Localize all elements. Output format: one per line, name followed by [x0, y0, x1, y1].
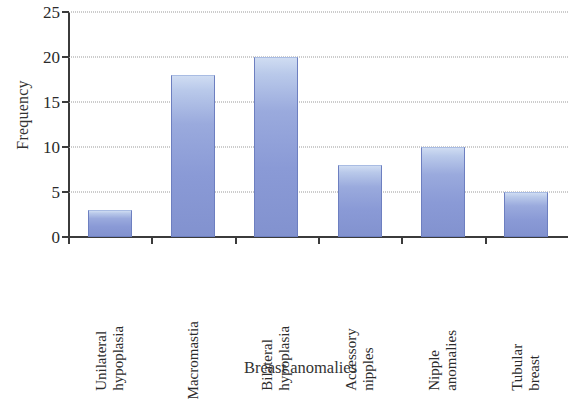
y-tick-mark — [62, 191, 69, 193]
gridline — [68, 102, 568, 103]
y-tick-label: 25 — [22, 4, 60, 21]
x-category-label: Tubularbreast — [470, 240, 575, 352]
x-axis-line — [62, 236, 568, 238]
y-tick-label: 5 — [22, 184, 60, 201]
gridline — [68, 12, 568, 13]
gridline — [68, 147, 568, 148]
y-tick-mark — [62, 101, 69, 103]
y-tick-mark — [62, 11, 69, 13]
x-category-label-line: Macromastia — [185, 288, 202, 400]
y-tick-mark — [62, 56, 69, 58]
gridline — [68, 192, 568, 193]
bar — [88, 210, 132, 237]
x-axis-title: Breast anomalies — [0, 358, 575, 378]
bar — [421, 147, 465, 237]
y-tick-label: 15 — [22, 94, 60, 111]
y-tick-label: 10 — [22, 139, 60, 156]
plot-area — [68, 12, 568, 237]
bar — [254, 57, 298, 237]
gridline — [68, 57, 568, 58]
y-tick-label: 20 — [22, 49, 60, 66]
bar — [171, 75, 215, 237]
x-axis-category-labels: UnilateralhypoplasiaMacromastiaBilateral… — [68, 240, 568, 352]
y-axis-line — [68, 12, 70, 237]
bar — [338, 165, 382, 237]
y-tick-mark — [62, 146, 69, 148]
y-axis-tick-labels: 0510152025 — [22, 0, 60, 240]
bar — [504, 192, 548, 237]
